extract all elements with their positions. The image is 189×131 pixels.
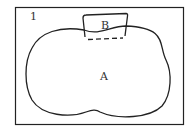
dashed-boundary [88,38,123,40]
region-b-label: B [101,19,109,32]
frame-label: 1 [30,10,37,23]
outer-frame [16,8,184,125]
region-a-label: A [99,70,109,83]
diagram-canvas: 1 B A [0,0,189,131]
